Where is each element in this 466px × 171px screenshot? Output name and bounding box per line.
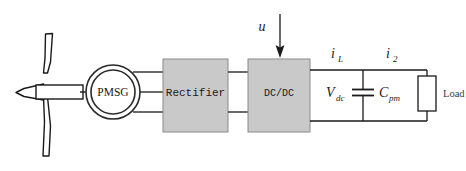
capacitor-symbol: C bbox=[379, 85, 389, 100]
wind-energy-system-diagram: PMSG Rectifier DC/DC u bbox=[0, 0, 466, 171]
current-il-symbol: i bbox=[331, 46, 335, 61]
control-input-u: u bbox=[259, 14, 285, 58]
load-resistor-body[interactable] bbox=[418, 76, 436, 111]
dc-link-rectifier-dcdc bbox=[228, 72, 248, 112]
block-rectifier-label: Rectifier bbox=[166, 87, 225, 99]
current-il-subscript: L bbox=[337, 54, 343, 64]
capacitor-subscript: pm bbox=[388, 93, 401, 103]
generator-label: PMSG bbox=[97, 86, 128, 98]
turbine-blade-upper bbox=[44, 34, 53, 74]
turbine-blade-lower bbox=[43, 97, 51, 156]
voltage-symbol: V bbox=[326, 85, 336, 100]
current-i2-symbol: i bbox=[386, 46, 390, 61]
current-label-il: i L bbox=[331, 46, 343, 64]
block-dcdc-label: DC/DC bbox=[264, 88, 294, 99]
wind-turbine bbox=[16, 34, 92, 157]
block-rectifier[interactable]: Rectifier bbox=[163, 59, 228, 132]
dc-bus-voltage-label: V dc bbox=[326, 85, 345, 103]
block-dcdc[interactable]: DC/DC bbox=[248, 59, 310, 132]
voltage-subscript: dc bbox=[336, 93, 345, 103]
current-i2-subscript: 2 bbox=[393, 54, 398, 64]
diagram-canvas: PMSG Rectifier DC/DC u bbox=[0, 0, 466, 171]
load-label: Load bbox=[443, 88, 465, 99]
load-element[interactable]: Load bbox=[418, 76, 465, 111]
current-label-i2: i 2 bbox=[386, 46, 398, 64]
generator-pmsg: PMSG bbox=[86, 65, 140, 119]
control-input-label: u bbox=[259, 19, 266, 34]
turbine-nacelle bbox=[36, 85, 83, 99]
capacitor-label: C pm bbox=[379, 85, 401, 103]
